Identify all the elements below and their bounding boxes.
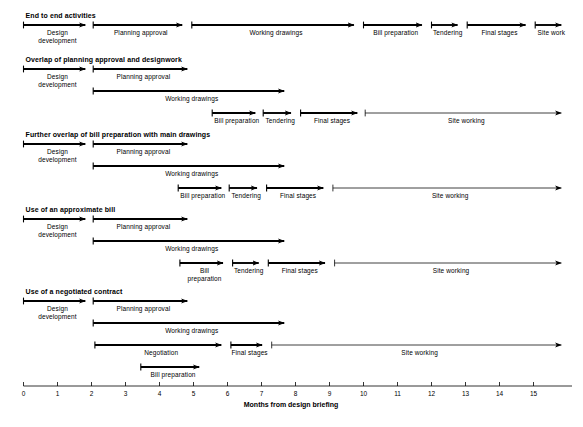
- activity-label: Bill preparation: [180, 192, 225, 200]
- activity-bar[interactable]: Tendering: [263, 110, 295, 125]
- axis-tick-label: 6: [226, 390, 230, 397]
- lane-3: NegotiationFinal stagesSite working: [95, 342, 561, 357]
- activity-label: Final stages: [282, 267, 319, 275]
- activity-bar[interactable]: Site work: [535, 22, 566, 36]
- activity-bar[interactable]: Site working: [365, 110, 561, 125]
- activity-bar[interactable]: Working drawings: [93, 238, 284, 253]
- lane-2: Working drawings: [93, 163, 284, 178]
- lane-3: Bill preparationTenderingFinal stagesSit…: [178, 185, 561, 200]
- activity-label: Design: [47, 223, 68, 231]
- activity-bar[interactable]: Designdevelopment: [24, 216, 86, 239]
- activity-bar[interactable]: Final stages: [268, 260, 325, 275]
- activity-bar[interactable]: Working drawings: [192, 22, 354, 37]
- activity-label: Site working: [433, 267, 470, 275]
- scenario-use-of-a-negotiated-contract: Use of a negotiated contractDesigndevelo…: [24, 288, 562, 379]
- activity-label: development: [38, 156, 76, 164]
- scenario-title: Overlap of planning approval and designw…: [26, 56, 182, 64]
- activity-label: Design: [47, 73, 68, 81]
- axis-tick-label: 10: [360, 390, 368, 397]
- activity-bar[interactable]: Final stages: [467, 22, 525, 37]
- activity-label: Bill preparation: [214, 117, 259, 125]
- activity-label: Working drawings: [165, 245, 219, 253]
- activity-bar[interactable]: Planning approval: [93, 298, 187, 313]
- axis-tick-label: 1: [56, 390, 60, 397]
- activity-label: preparation: [188, 275, 222, 283]
- activity-bar[interactable]: Designdevelopment: [24, 141, 86, 164]
- activity-bar[interactable]: Planning approval: [93, 66, 187, 81]
- activity-bar[interactable]: Designdevelopment: [24, 22, 86, 45]
- activity-bar[interactable]: Negotiation: [95, 342, 221, 357]
- activity-label: Tendering: [234, 267, 264, 275]
- lane-3: Bill preparationTenderingFinal stagesSit…: [212, 110, 561, 125]
- activity-label: development: [38, 81, 76, 89]
- activity-bar[interactable]: Final stages: [231, 342, 268, 357]
- lane-1: DesigndevelopmentPlanning approval: [24, 141, 188, 164]
- activity-bar[interactable]: Working drawings: [93, 88, 284, 103]
- scenario-overlap-of-planning-approval-and-designwork: Overlap of planning approval and designw…: [24, 56, 562, 125]
- scenario-title: Further overlap of bill preparation with…: [26, 131, 211, 139]
- axis-tick-label: 5: [192, 390, 196, 397]
- activity-label: Planning approval: [114, 29, 168, 37]
- activity-bar[interactable]: Bill preparation: [178, 185, 225, 200]
- activity-label: development: [38, 231, 76, 239]
- activity-label: Final stages: [481, 29, 518, 37]
- activity-bar[interactable]: Designdevelopment: [24, 298, 86, 321]
- axis-tick-label: 3: [124, 390, 128, 397]
- activity-label: Final stages: [280, 192, 317, 200]
- lane-1: DesigndevelopmentPlanning approval: [24, 298, 188, 321]
- axis-tick-label: 11: [394, 390, 401, 397]
- activity-bar[interactable]: Designdevelopment: [24, 66, 86, 89]
- activity-bar[interactable]: Tendering: [432, 22, 463, 37]
- activity-label: Site working: [401, 349, 438, 357]
- activity-bar[interactable]: Tendering: [233, 260, 264, 275]
- activity-label: Site working: [448, 117, 485, 125]
- activity-bar[interactable]: Working drawings: [93, 320, 284, 335]
- activity-bar[interactable]: Final stages: [267, 185, 324, 200]
- activity-bar[interactable]: Bill preparation: [364, 22, 422, 37]
- scenario-title: End to end activities: [26, 12, 96, 19]
- activity-label: development: [38, 37, 76, 45]
- activity-label: Planning approval: [116, 223, 170, 231]
- activity-label: Site working: [432, 192, 469, 200]
- activity-bar[interactable]: Working drawings: [93, 163, 284, 178]
- lane-1: DesigndevelopmentPlanning approval: [24, 66, 188, 89]
- axis-title: Months from design briefing: [244, 401, 339, 409]
- lane-2: Working drawings: [93, 320, 284, 335]
- axis-tick-label: 9: [328, 390, 332, 397]
- activity-label: Planning approval: [116, 148, 170, 156]
- activity-bar[interactable]: Bill preparation: [212, 110, 259, 125]
- gantt-diagram-svg: End to end activitiesDesigndevelopmentPl…: [0, 0, 583, 427]
- activity-label: Bill preparation: [151, 371, 196, 379]
- axis-tick-label: 12: [428, 390, 436, 397]
- activity-bar[interactable]: Tendering: [229, 185, 261, 200]
- activity-bar[interactable]: Planning approval: [93, 216, 187, 231]
- axis-tick-label: 13: [462, 390, 470, 397]
- axis-tick-label: 7: [260, 390, 264, 397]
- activity-label: Final stages: [314, 117, 351, 125]
- activity-label: Design: [47, 148, 68, 156]
- activity-label: Working drawings: [165, 95, 219, 103]
- activity-bar[interactable]: Final stages: [301, 110, 358, 125]
- activity-label: Tendering: [265, 117, 295, 125]
- lane-4: Bill preparation: [141, 364, 199, 379]
- gantt-chart-canvas: End to end activitiesDesigndevelopmentPl…: [0, 0, 583, 427]
- scenario-layer: End to end activitiesDesigndevelopmentPl…: [24, 12, 566, 379]
- axis-tick-label: 0: [22, 390, 26, 397]
- activity-bar[interactable]: Billpreparation: [180, 260, 223, 283]
- activity-label: Design: [47, 305, 68, 313]
- time-axis: 0123456789101112131415Months from design…: [22, 382, 572, 409]
- activity-bar[interactable]: Planning approval: [93, 22, 182, 37]
- axis-tick-label: 8: [294, 390, 298, 397]
- activity-bar[interactable]: Planning approval: [93, 141, 187, 156]
- activity-label: Negotiation: [144, 349, 178, 357]
- activity-label: development: [38, 313, 76, 321]
- activity-label: Planning approval: [116, 73, 170, 81]
- activity-label: Planning approval: [116, 305, 170, 313]
- activity-bar[interactable]: Site working: [272, 342, 562, 357]
- activity-label: Working drawings: [249, 29, 303, 37]
- scenario-further-overlap-of-bill-preparation-with-main-drawings: Further overlap of bill preparation with…: [24, 131, 562, 200]
- activity-bar[interactable]: Bill preparation: [141, 364, 199, 379]
- activity-bar[interactable]: Site working: [335, 260, 562, 275]
- activity-bar[interactable]: Site working: [333, 185, 561, 200]
- activity-label: Tendering: [231, 192, 261, 200]
